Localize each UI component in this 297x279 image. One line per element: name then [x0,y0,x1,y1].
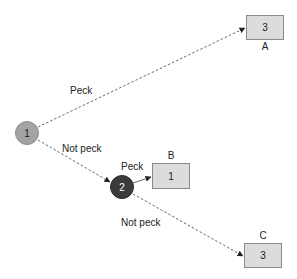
outcome-name: B [168,150,175,161]
decision-tree-diagram: Peck Not peck Peck Not peck 1 2 3 A 1 B … [0,0,297,279]
edge-line [133,177,151,183]
outcome-value: 3 [260,250,266,261]
node-label: 1 [24,128,30,139]
edge-n2-to-c: Not peck [121,194,243,256]
node-label: 2 [119,182,125,193]
outcome-value: 1 [168,171,174,182]
outcome-name: C [259,230,266,241]
outcome-b: 1 B [153,150,190,189]
edge-label-not-peck: Not peck [62,143,102,154]
edge-n1-to-a: Peck [38,28,245,127]
edge-n1-to-n2: Not peck [38,140,110,182]
edge-label-not-peck: Not peck [121,217,161,228]
edge-line [38,28,245,127]
edge-label-peck: Peck [70,85,93,96]
decision-node-1: 1 [16,122,39,145]
outcome-a: 3 A [247,16,284,53]
decision-node-2: 2 [111,176,134,199]
outcome-name: A [262,41,269,52]
outcome-value: 3 [262,22,268,33]
outcome-c: 3 C [245,230,282,268]
edge-label-peck: Peck [121,161,144,172]
